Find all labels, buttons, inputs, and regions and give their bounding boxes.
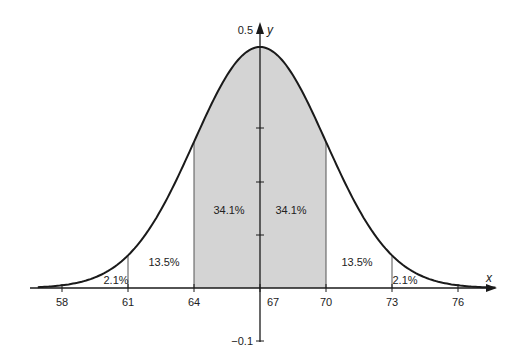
x-tick-label: 64 <box>188 296 200 308</box>
region-label: 34.1% <box>275 204 306 216</box>
region-label: 34.1% <box>213 204 244 216</box>
x-tick-label: 58 <box>56 296 68 308</box>
normal-distribution-chart: 58616467707376 2.1%13.5%34.1%34.1%13.5%2… <box>0 0 515 364</box>
region-label: 2.1% <box>103 274 128 286</box>
x-tick-label: 76 <box>452 296 464 308</box>
y-top-label: 0.5 <box>238 24 253 36</box>
y-axis-arrow-icon <box>256 22 264 34</box>
y-axis-label: y <box>266 23 274 37</box>
x-tick-label: 73 <box>386 296 398 308</box>
region-label: 2.1% <box>392 274 417 286</box>
region-label: 13.5% <box>341 256 372 268</box>
x-tick-label: 61 <box>122 296 134 308</box>
x-tick-label: 67 <box>267 296 279 308</box>
y-bottom-label: −0.1 <box>231 335 253 347</box>
x-tick-label: 70 <box>320 296 332 308</box>
x-axis-label: x <box>485 271 493 285</box>
region-label: 13.5% <box>148 256 179 268</box>
